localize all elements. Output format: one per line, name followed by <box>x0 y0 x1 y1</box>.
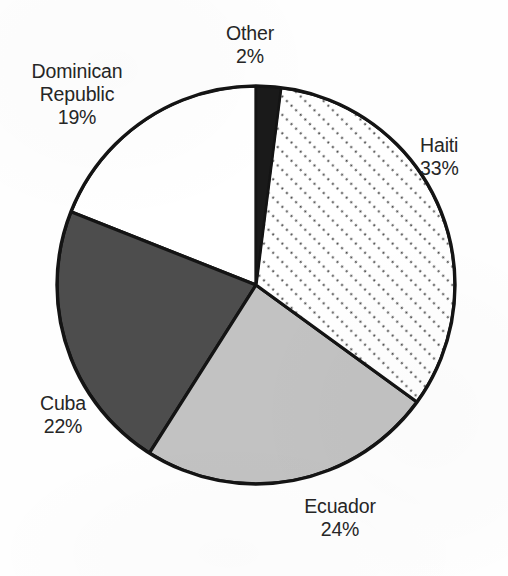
pie-chart: Other 2% Dominican Republic 19% Haiti 33… <box>0 0 508 576</box>
pie-label-other: Other 2% <box>176 22 324 68</box>
pie-label-cuba: Cuba 22% <box>8 392 118 438</box>
pie-label-other-value: 2% <box>176 45 324 68</box>
pie-label-dominican-republic-value: 19% <box>2 106 152 129</box>
pie-label-cuba-name: Cuba <box>8 392 118 415</box>
pie-label-dominican-republic-name-line1: Dominican <box>2 60 152 83</box>
pie-label-haiti: Haiti 33% <box>420 134 506 180</box>
pie-label-ecuador-value: 24% <box>266 518 414 541</box>
pie-label-other-name: Other <box>176 22 324 45</box>
pie-label-haiti-name: Haiti <box>420 134 506 157</box>
pie-label-haiti-value: 33% <box>420 157 506 180</box>
pie-label-cuba-value: 22% <box>8 415 118 438</box>
pie-label-dominican-republic: Dominican Republic 19% <box>2 60 152 128</box>
chart-page: Other 2% Dominican Republic 19% Haiti 33… <box>0 0 508 576</box>
pie-label-ecuador: Ecuador 24% <box>266 495 414 541</box>
pie-label-ecuador-name: Ecuador <box>266 495 414 518</box>
pie-label-dominican-republic-name-line2: Republic <box>2 83 152 106</box>
